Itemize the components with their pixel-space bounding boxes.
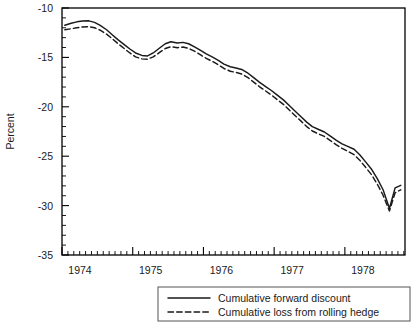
axes-layer: [62, 8, 405, 255]
y-axis-title-text: Percent: [4, 113, 16, 149]
y-tick-label: -35: [38, 249, 53, 261]
x-tick-label: 1974: [68, 264, 92, 276]
legend-label-1: Cumulative forward discount: [218, 292, 351, 304]
y-tick-labels: -10-15-20-25-30-35: [38, 2, 53, 261]
y-tick-label: -15: [38, 51, 53, 63]
line-chart: -10-15-20-25-30-35 19741975197619771978 …: [0, 0, 417, 323]
legend-label-2: Cumulative loss from rolling hedge: [218, 306, 379, 318]
plot-frame: [62, 8, 405, 255]
chart-container: -10-15-20-25-30-35 19741975197619771978 …: [0, 0, 417, 323]
y-tick-label: -30: [38, 200, 53, 212]
y-axis-title: Percent: [4, 113, 16, 149]
x-tick-label: 1976: [210, 264, 234, 276]
x-tick-label: 1978: [351, 264, 375, 276]
x-tick-label: 1977: [280, 264, 304, 276]
x-tick-labels: 19741975197619771978: [68, 264, 374, 276]
y-tick-label: -10: [38, 2, 53, 14]
x-tick-label: 1975: [139, 264, 163, 276]
tick-layer: [62, 8, 404, 255]
y-tick-label: -20: [38, 101, 53, 113]
chart-legend: Cumulative forward discountCumulative lo…: [158, 287, 410, 321]
series-layer: [65, 21, 401, 211]
series-line-2: [65, 27, 401, 211]
series-line-1: [65, 21, 401, 209]
y-tick-label: -25: [38, 150, 53, 162]
